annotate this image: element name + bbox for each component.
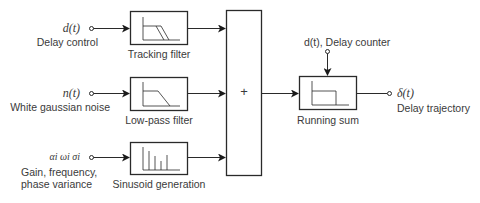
running-sum-block: [300, 77, 357, 110]
input-terminal-alpha: [90, 156, 94, 160]
summer-plus-symbol: +: [237, 86, 251, 98]
input-symbol-d: d(t): [40, 22, 80, 34]
running-sum-label: Running sum: [288, 114, 368, 126]
input-label-white-noise: White gaussian noise: [0, 101, 110, 113]
sinusoid-spectrum-icon: [143, 147, 180, 170]
lowpass-filter-icon: [143, 82, 180, 106]
input-terminal-n: [90, 92, 94, 96]
input-symbol-n: n(t): [40, 87, 80, 99]
input-label-phase-variance: phase variance: [21, 178, 92, 190]
output-terminal: [388, 92, 392, 96]
tracking-filter-block: [131, 12, 188, 45]
output-label-delay-trajectory: Delay trajectory: [397, 102, 470, 114]
input-terminal-d: [90, 27, 94, 31]
tracking-filter-icon: [143, 17, 180, 40]
input-label-delay-control: Delay control: [0, 36, 98, 48]
output-symbol-delta: δ(t): [397, 87, 414, 99]
running-sum-icon: [312, 81, 349, 105]
counter-terminal: [326, 50, 330, 54]
lowpass-filter-label: Low-pass filter: [119, 114, 199, 126]
lowpass-filter-block: [131, 78, 188, 111]
delay-counter-label: d(t), Delay counter: [304, 36, 390, 48]
sinusoid-generation-label: Sinusoid generation: [104, 178, 214, 190]
tracking-filter-label: Tracking filter: [119, 48, 199, 60]
input-symbol-alpha-omega-sigma: αi ωi σi: [20, 151, 80, 163]
input-label-gain-frequency: Gain, frequency,: [21, 166, 97, 178]
